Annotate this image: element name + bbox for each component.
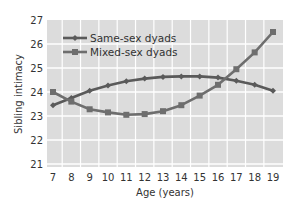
y-tick-label: 21 (30, 159, 43, 170)
x-tick-label: 17 (230, 172, 243, 183)
y-tick-label: 22 (30, 135, 43, 146)
line-chart: 21222324252627 78910111213141516171819 S… (0, 0, 296, 206)
square-marker (50, 89, 56, 95)
square-marker (197, 93, 203, 99)
square-marker (142, 111, 148, 117)
legend-label: Same-sex dyads (90, 32, 176, 44)
y-tick-label: 26 (30, 39, 43, 50)
x-axis-title: Age (years) (136, 187, 194, 198)
x-tick-label: 19 (267, 172, 280, 183)
square-marker (68, 99, 74, 105)
y-tick-label: 25 (30, 63, 43, 74)
x-tick-label: 12 (138, 172, 151, 183)
x-tick-label: 8 (68, 172, 74, 183)
square-marker (252, 49, 258, 55)
y-tick-label: 27 (30, 15, 43, 26)
x-tick-label: 14 (175, 172, 188, 183)
y-axis-title: Sibling intimacy (13, 54, 24, 134)
legend-label: Mixed-sex dyads (90, 46, 178, 58)
square-marker (178, 102, 184, 108)
square-marker (87, 106, 93, 112)
square-marker (160, 108, 166, 114)
y-axis-ticks: 21222324252627 (30, 15, 43, 170)
square-marker (215, 82, 221, 88)
square-marker (123, 112, 129, 118)
square-marker (105, 109, 111, 115)
y-tick-label: 24 (30, 87, 43, 98)
square-marker (270, 29, 276, 35)
x-tick-label: 15 (193, 172, 206, 183)
x-tick-label: 16 (212, 172, 225, 183)
x-axis-ticks: 78910111213141516171819 (50, 172, 280, 183)
x-tick-label: 7 (50, 172, 56, 183)
x-tick-label: 13 (157, 172, 170, 183)
x-tick-label: 10 (102, 172, 115, 183)
square-marker (233, 66, 239, 72)
x-tick-label: 9 (86, 172, 92, 183)
y-tick-label: 23 (30, 111, 43, 122)
square-marker (72, 49, 78, 55)
x-tick-label: 18 (248, 172, 261, 183)
x-tick-label: 11 (120, 172, 133, 183)
